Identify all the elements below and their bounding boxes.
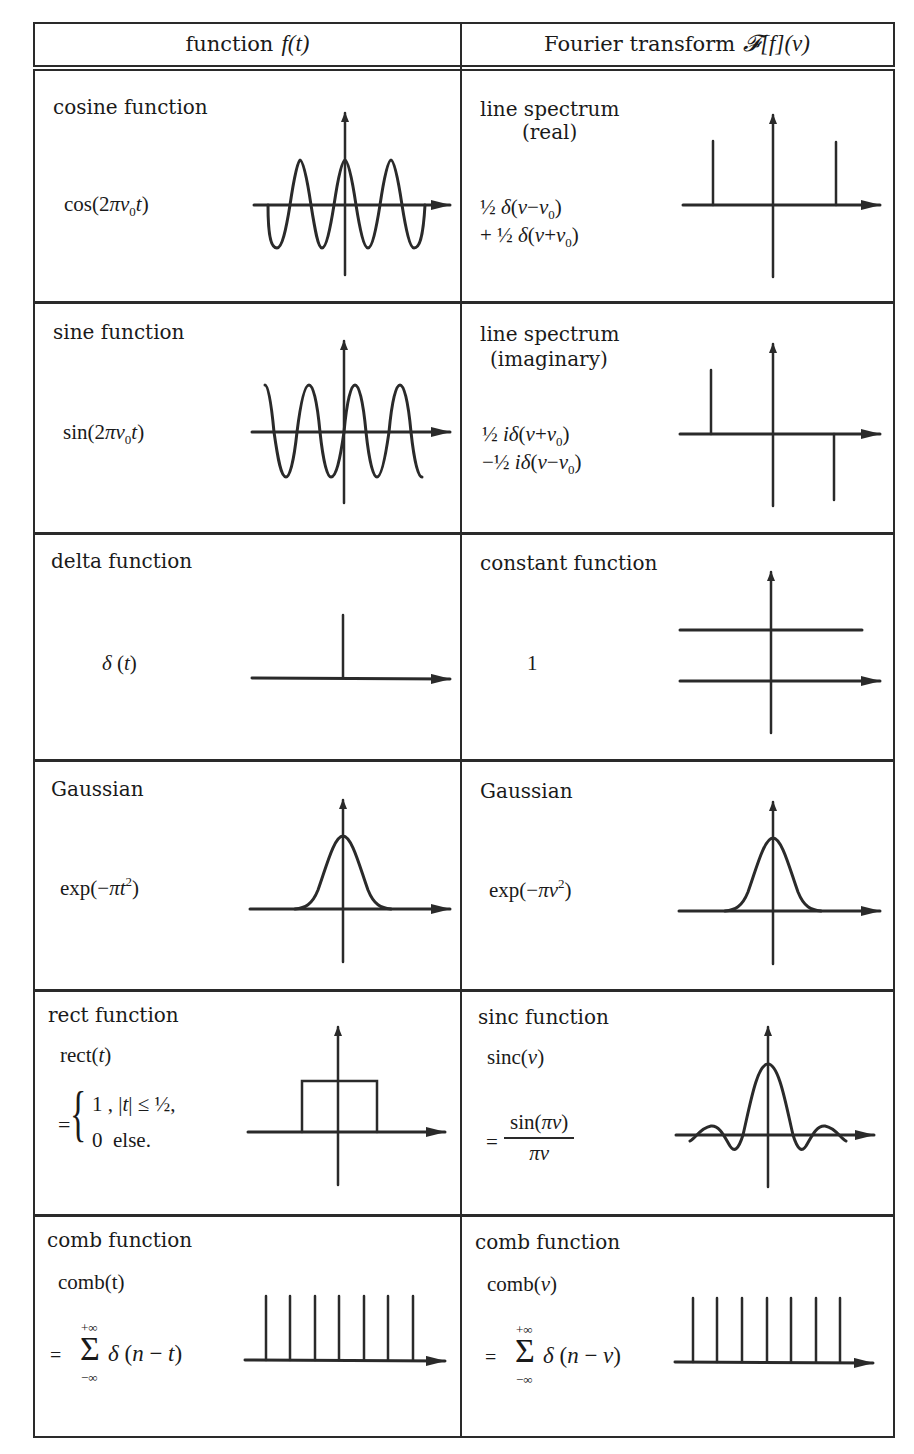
cell-title: sinc function [478,1005,609,1029]
cell-subtitle: (imaginary) [490,347,608,371]
header-label: Fourier transform [544,32,735,56]
sum-expression: = +∞ Σ −∞ δ (n − ν) [485,1322,655,1402]
formula: exp(−πt2) [60,875,139,900]
piecewise-definition: = { 1 , |t| ≤ ½, 0 else. [58,1090,228,1160]
row-divider [34,301,894,304]
formula: δ (t) [102,651,137,675]
cell-subtitle: (real) [522,120,577,144]
cell-title: delta function [51,549,192,573]
numerator: sin(πν) [504,1110,574,1139]
function-name: sinc(ν) [487,1045,544,1069]
column-divider [460,23,462,1437]
header-label: function [185,32,273,56]
cell-title: comb function [475,1230,620,1254]
sigma-icon: Σ [80,1332,100,1366]
cell-title: sine function [53,320,184,344]
row-divider [34,532,894,535]
cell-title: line spectrum [480,97,619,121]
equals-sign: = [486,1130,498,1154]
sigma-icon: Σ [515,1334,535,1368]
header-symbol: 𝓕[f](ν) [743,31,810,57]
cell-title: line spectrum [480,322,619,346]
function-name: rect(t) [60,1043,111,1067]
column-header-function: function f(t) [34,23,461,65]
row-divider [34,1214,894,1217]
cell-title: cosine function [53,95,208,119]
row-divider [34,989,894,992]
formula: cos(2πν0t) [64,192,149,220]
sum-expression: = +∞ Σ −∞ δ (n − t) [50,1320,220,1400]
function-name: comb(ν) [487,1272,557,1296]
column-header-fourier: Fourier transform 𝓕[f](ν) [461,23,893,65]
sum-lower-limit: −∞ [516,1372,533,1388]
formula: ½ δ(ν−ν0)+ ½ δ(ν+ν0) [480,195,579,251]
formula: ½ iδ(ν+ν0)−½ iδ(ν−ν0) [482,422,581,478]
denominator: πν [504,1139,574,1166]
cell-title: constant function [480,551,657,575]
function-name: comb(t) [58,1270,124,1294]
cell-title: Gaussian [480,779,573,803]
header-symbol: f(t) [281,31,309,57]
formula: exp(−πν2) [489,877,572,902]
cell-title: comb function [47,1228,192,1252]
row-divider [34,759,894,762]
cell-title: rect function [48,1003,179,1027]
formula: 1 [527,651,538,675]
sum-lower-limit: −∞ [81,1370,98,1386]
sinc-fraction: sin(πν) πν [504,1110,574,1166]
cell-title: Gaussian [51,777,144,801]
formula: sin(2πν0t) [63,420,144,448]
